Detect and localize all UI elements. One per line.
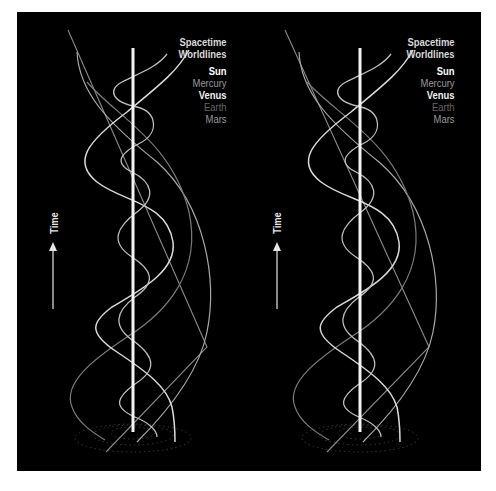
legend: Spacetime Worldlines Sun Mercury Venus E… bbox=[407, 36, 455, 125]
legend-item-mars: Mars bbox=[179, 113, 227, 125]
legend-item-earth: Earth bbox=[179, 101, 227, 113]
time-axis-label: Time bbox=[271, 210, 283, 236]
up-arrow-icon bbox=[272, 242, 282, 310]
legend-title-line2: Worldlines bbox=[179, 48, 227, 60]
right-panel: Spacetime Worldlines Sun Mercury Venus E… bbox=[245, 12, 477, 471]
left-panel: Spacetime Worldlines Sun Mercury Venus E… bbox=[17, 12, 249, 471]
legend: Spacetime Worldlines Sun Mercury Venus E… bbox=[179, 36, 227, 125]
legend-item-venus: Venus bbox=[407, 89, 455, 101]
mercury-worldline bbox=[114, 54, 167, 437]
legend-title-line1: Spacetime bbox=[179, 36, 227, 48]
legend-item-earth: Earth bbox=[407, 101, 455, 113]
legend-title-line2: Worldlines bbox=[407, 48, 455, 60]
earth-worldline bbox=[293, 82, 416, 440]
legend-item-mercury: Mercury bbox=[407, 77, 455, 89]
legend-title-line1: Spacetime bbox=[407, 36, 455, 48]
up-arrow-icon bbox=[48, 242, 58, 310]
time-axis-label: Time bbox=[48, 210, 60, 236]
stereo-figure-canvas: Spacetime Worldlines Sun Mercury Venus E… bbox=[17, 12, 481, 471]
legend-item-sun: Sun bbox=[179, 65, 227, 77]
legend-item-sun: Sun bbox=[407, 65, 455, 77]
legend-item-mars: Mars bbox=[407, 113, 455, 125]
legend-item-mercury: Mercury bbox=[179, 77, 227, 89]
legend-item-venus: Venus bbox=[179, 89, 227, 101]
